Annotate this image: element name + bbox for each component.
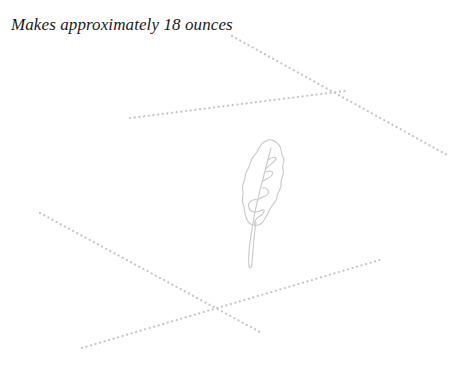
dotted-line-3	[40, 213, 260, 332]
dotted-line-1	[232, 36, 449, 156]
dotted-line-4	[82, 259, 383, 348]
decorative-illustration	[0, 0, 475, 367]
leaf-icon	[242, 140, 284, 268]
dotted-line-2	[130, 91, 345, 118]
dotted-lines	[40, 36, 449, 348]
